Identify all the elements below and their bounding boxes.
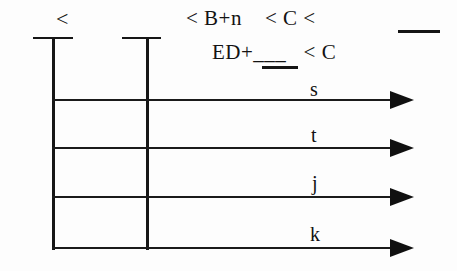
math-expression-line-2: ED+___ < C xyxy=(212,40,336,65)
arrow-shaft-4 xyxy=(52,247,392,249)
vertical-axis-left xyxy=(52,37,55,250)
arrow-label-j: j xyxy=(312,172,318,195)
arrow-head-4 xyxy=(390,239,414,257)
arrow-label-k: k xyxy=(310,223,320,246)
arrow-head-2 xyxy=(390,139,414,157)
less-than-symbol-top-left: < xyxy=(56,6,68,32)
math-expression-line-1: < B+n < C < xyxy=(186,6,316,31)
underscore-stroke-line-1 xyxy=(398,30,440,33)
vertical-axis-right xyxy=(146,37,149,250)
arrow-label-t: t xyxy=(311,124,317,147)
arrow-head-3 xyxy=(390,188,414,206)
arrow-label-s: s xyxy=(310,78,318,101)
figure-canvas: < < B+n < C < ED+___ < C s t j k xyxy=(0,0,457,271)
arrow-shaft-1 xyxy=(52,99,392,101)
arrow-shaft-3 xyxy=(52,196,392,198)
underscore-stroke-line-2 xyxy=(262,66,298,69)
vertical-axis-right-cap xyxy=(122,37,161,39)
arrow-shaft-2 xyxy=(52,147,392,149)
arrow-head-1 xyxy=(390,91,414,109)
